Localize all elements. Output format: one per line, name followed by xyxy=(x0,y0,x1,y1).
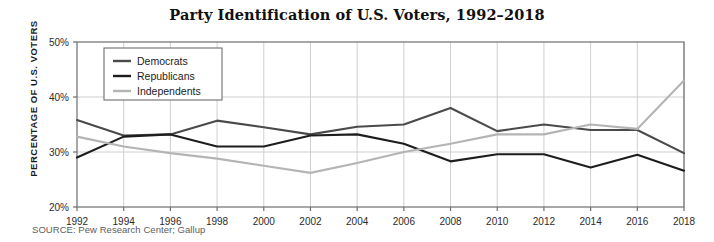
legend-label-republicans[interactable]: Republicans xyxy=(137,70,195,82)
y-axis-tick-label: 20% xyxy=(49,202,69,213)
x-axis-tick-label: 2006 xyxy=(393,216,416,227)
chart-figure: Party Identification of U.S. Voters, 199… xyxy=(0,0,714,242)
legend-label-independents[interactable]: Independents xyxy=(137,85,201,97)
legend-label-democrats[interactable]: Democrats xyxy=(137,55,188,67)
chart-legend[interactable]: DemocratsRepublicansIndependents xyxy=(104,48,222,100)
x-axis-tick-label: 2010 xyxy=(486,216,509,227)
y-axis-tick-label: 50% xyxy=(49,37,69,48)
x-axis-tick-label: 2002 xyxy=(299,216,322,227)
x-axis-tick-label: 2012 xyxy=(533,216,556,227)
x-axis-tick-label: 2000 xyxy=(253,216,276,227)
page-title: Party Identification of U.S. Voters, 199… xyxy=(0,6,714,23)
x-axis-tick-label: 2016 xyxy=(626,216,649,227)
y-axis-title: PERCENTAGE OF U.S. VOTERS xyxy=(28,19,39,179)
source-note: SOURCE: Pew Research Center; Gallup xyxy=(32,224,205,235)
x-axis-tick-label: 2014 xyxy=(579,216,602,227)
x-axis-tick-label: 2008 xyxy=(439,216,462,227)
series-line-democrats xyxy=(77,108,684,153)
y-axis-tick-label: 30% xyxy=(49,147,69,158)
x-axis-tick-label: 2018 xyxy=(673,216,696,227)
line-chart-plot: 20%30%40%50%1992199419961998200020022004… xyxy=(0,0,714,242)
x-axis-tick-label: 2004 xyxy=(346,216,369,227)
y-axis-tick-label: 40% xyxy=(49,92,69,103)
x-axis-tick-label: 1998 xyxy=(206,216,229,227)
